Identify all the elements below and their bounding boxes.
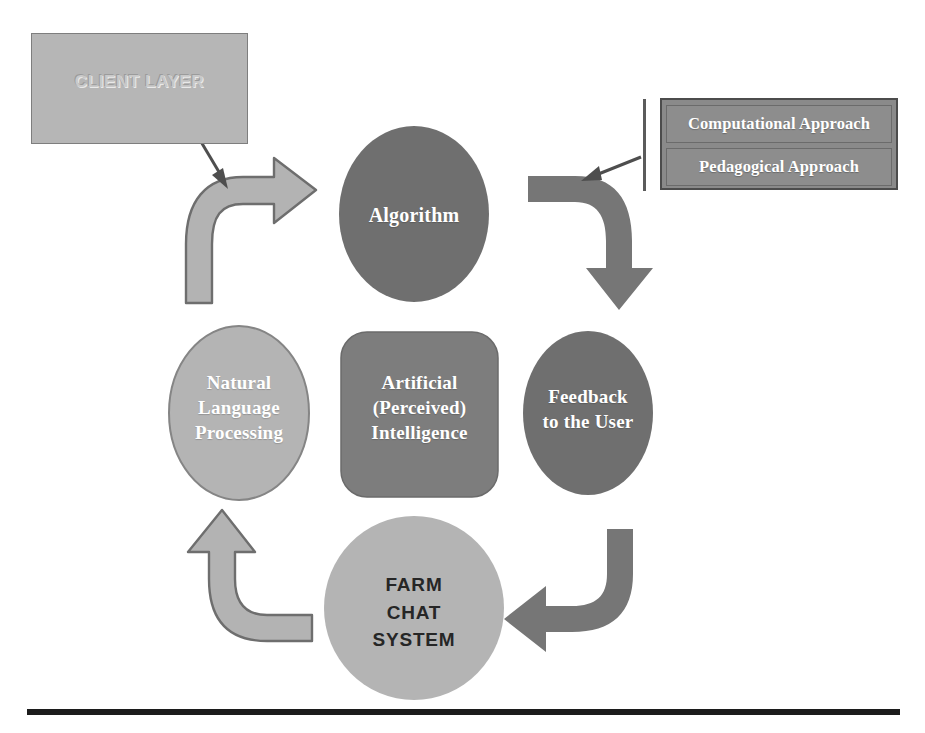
approach-bracket [643, 99, 646, 191]
diagram-canvas: Algorithm Feedback to the User FARM CHAT… [0, 0, 925, 733]
nlp-node-shape[interactable] [169, 326, 309, 500]
client-layer-label: CLIENT LAYER [31, 72, 248, 92]
approach-group: Computational Approach Pedagogical Appro… [660, 98, 898, 190]
feedback-node-shape[interactable] [523, 331, 653, 495]
ai-center-node-shape[interactable] [341, 332, 498, 497]
approach-item-computational-label: Computational Approach [688, 114, 870, 134]
farm-chat-node-shape[interactable] [324, 516, 504, 700]
approach-item-pedagogical[interactable]: Pedagogical Approach [666, 148, 892, 186]
approach-item-computational[interactable]: Computational Approach [666, 105, 892, 143]
algorithm-node-shape[interactable] [339, 126, 489, 302]
approach-item-pedagogical-label: Pedagogical Approach [699, 157, 859, 177]
